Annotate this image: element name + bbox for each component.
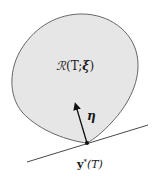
optimal-point (85, 141, 89, 145)
normal-label: η (87, 109, 96, 123)
region-label: ℛ(T;ξ) (56, 59, 94, 73)
diagram-canvas: ℛ(T;ξ) η y*(T) (0, 0, 155, 178)
reachable-set-region (12, 14, 138, 143)
point-label: y*(T) (76, 158, 103, 171)
